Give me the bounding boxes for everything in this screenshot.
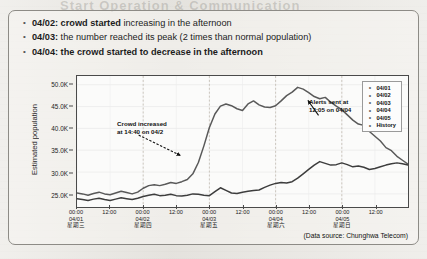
annotation-line-1: Crowd increased [117,120,167,128]
x-axis-time-label: 12:00 [169,209,183,216]
x-axis-tick-group: 00:0004/05星期日 [333,209,351,229]
x-axis-tick-group: 00:0004/03星期五 [200,209,218,229]
x-axis-tick-group: 12:00 [102,209,116,216]
bullet-text-normal: increasing in the afternoon [123,18,231,28]
list-item: • 04/04: the crowd started to decrease i… [23,46,410,58]
plot-svg [77,76,408,207]
bullet-text-bold: 04/02: crowd started [32,18,123,28]
x-axis-date-label: 04/03 [200,216,218,223]
bullet-dot-icon: • [23,46,32,58]
x-axis-date-label: 04/05 [333,216,351,223]
x-axis-tick-mark [209,205,210,209]
y-axis-tick-mark [69,150,73,151]
x-axis-time-label: 00:00 [134,209,152,216]
legend-item-label: 04/05 [376,115,390,121]
annotation-line-2: 12:05 on 04/04 [309,106,351,114]
y-axis-tick-mark [69,194,73,195]
x-axis-time-label: 12:00 [236,209,250,216]
legend-item[interactable]: •04/04 [366,107,396,114]
x-axis-tick-mark [143,205,144,209]
legend-item[interactable]: •04/03 [366,99,396,106]
x-axis-tick-mark [376,205,377,209]
y-axis-tick-label: 30.0K [51,169,68,176]
legend-marker-icon: • [366,114,373,121]
list-item: • 04/03: the number reached its peak (2 … [23,31,410,43]
x-axis-tick-mark [176,205,177,209]
x-axis-weekday-label: 星期五 [200,222,218,229]
y-axis-tick-mark [69,83,73,84]
x-axis-tick-group: 12:00 [369,209,383,216]
legend-marker-icon: • [366,107,373,114]
x-axis-time-label: 12:00 [102,209,116,216]
legend-item-label: 04/02 [376,92,390,98]
x-axis-tick-mark [309,205,310,209]
x-axis-time-label: 00:00 [200,209,218,216]
data-source-note: (Data source: Chunghwa Telecom) [303,232,408,239]
x-axis-tick-mark [109,205,110,209]
x-axis-date-label: 04/02 [134,216,152,223]
y-axis-tick-label: 25.0K [51,191,68,198]
y-axis-labels: 25.0K30.0K35.0K40.0K45.0K50.0K [29,75,73,208]
slide-frame: • 04/02: crowd started increasing in the… [8,10,419,245]
x-axis-time-label: 12:00 [302,209,316,216]
population-chart: Estimated population 25.0K30.0K35.0K40.0… [29,73,411,241]
x-axis-tick-group: 12:00 [169,209,183,216]
legend-marker-icon: • [366,99,373,106]
bullet-text: 04/02: crowd started increasing in the a… [32,17,232,29]
legend-item[interactable]: •04/05 [366,114,396,121]
bullet-text-bold: 04/03: [32,32,61,42]
x-axis-tick-mark [76,205,77,209]
x-axis-weekday-label: 星期三 [67,222,85,229]
list-item: • 04/02: crowd started increasing in the… [23,17,410,29]
y-axis-tick-label: 45.0K [51,103,68,110]
plot-area: •04/01•04/02•04/03•04/04•04/05•History C… [76,75,409,208]
bullet-dot-icon: • [23,31,32,43]
legend-item[interactable]: •04/01 [366,84,396,91]
legend-item-label: 04/03 [376,100,390,106]
x-axis-tick-mark [276,205,277,209]
x-axis-tick-group: 12:00 [302,209,316,216]
legend-item-label: History [376,122,396,128]
bullet-text-bold: 04/04: the crowd started to decrease in … [32,47,263,57]
x-axis-tick-group: 00:0004/02星期四 [134,209,152,229]
annotation-line-1: Alerts sent at [309,98,351,106]
y-axis-tick-label: 50.0K [51,80,68,87]
annotation-line-2: at 14:40 on 04/2 [117,128,167,136]
bullet-dot-icon: • [23,17,32,29]
legend-item-label: 04/04 [376,107,390,113]
x-axis-tick-mark [243,205,244,209]
x-axis-weekday-label: 星期四 [134,222,152,229]
bullet-text: 04/03: the number reached its peak (2 ti… [32,31,311,43]
x-axis-weekday-label: 星期日 [333,222,351,229]
y-axis-tick-mark [69,106,73,107]
bullet-text-normal: the number reached its peak (2 times tha… [61,32,312,42]
x-axis-time-label: 00:00 [67,209,85,216]
x-axis-date-label: 04/01 [67,216,85,223]
chart-legend[interactable]: •04/01•04/02•04/03•04/04•04/05•History [362,81,402,132]
legend-item[interactable]: •04/02 [366,92,396,99]
y-axis-tick-label: 35.0K [51,147,68,154]
legend-marker-icon: • [366,84,373,91]
x-axis-tick-group: 00:0004/04星期六 [267,209,285,229]
y-axis-tick-mark [69,172,73,173]
x-axis-tick-group: 00:0004/01星期三 [67,209,85,229]
x-axis-tick-group: 12:00 [236,209,250,216]
x-axis-time-label: 00:00 [267,209,285,216]
bullet-text: 04/04: the crowd started to decrease in … [32,46,263,58]
annotation-crowd-increased: Crowd increased at 14:40 on 04/2 [117,120,167,136]
y-axis-tick-label: 40.0K [51,125,68,132]
legend-item-label: 04/01 [376,85,390,91]
legend-marker-icon: • [366,122,373,129]
legend-item[interactable]: •History [366,122,396,129]
x-axis-time-label: 12:00 [369,209,383,216]
x-axis-tick-mark [342,205,343,209]
annotation-alerts-sent: Alerts sent at 12:05 on 04/04 [309,98,351,114]
x-axis-weekday-label: 星期六 [267,222,285,229]
x-axis-time-label: 00:00 [333,209,351,216]
legend-marker-icon: • [366,92,373,99]
bullet-list: • 04/02: crowd started increasing in the… [23,17,410,60]
y-axis-tick-mark [69,128,73,129]
